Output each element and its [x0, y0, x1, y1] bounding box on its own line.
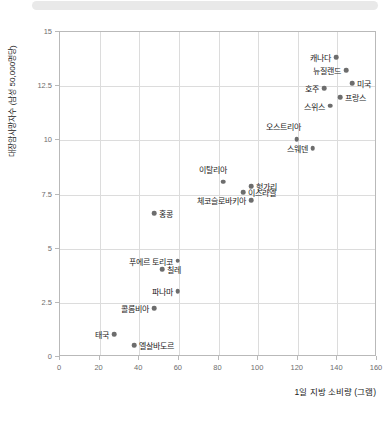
data-point-label: 칠레: [167, 264, 181, 275]
data-point-label: 홍콩: [159, 208, 173, 219]
data-point[interactable]: [221, 179, 226, 184]
data-point[interactable]: [112, 332, 117, 337]
y-gridline: [60, 303, 375, 304]
data-point[interactable]: [176, 258, 181, 263]
y-tick: [55, 248, 59, 249]
x-tick: [59, 356, 60, 360]
data-point[interactable]: [338, 95, 343, 100]
data-point-label: 미국: [357, 78, 371, 89]
data-point[interactable]: [334, 55, 339, 60]
x-tick: [376, 356, 377, 360]
x-gridline: [337, 32, 338, 355]
plot-area: [59, 31, 376, 356]
scatter-chart-figure: 1일 지방 소비량 (그램) 대장암사망자수 (남성 50,000명당) 020…: [0, 0, 385, 426]
x-tick-label: 0: [57, 363, 61, 372]
data-point-label: 이탈리아: [199, 163, 227, 174]
data-point-label: 캐나다: [310, 52, 331, 63]
y-tick: [55, 194, 59, 195]
y-tick: [55, 302, 59, 303]
data-point-label: 뉴질랜드: [313, 65, 341, 76]
data-point-label: 파나마: [152, 286, 173, 297]
data-point-label: 엘살바도르: [139, 340, 174, 351]
y-gridline: [60, 140, 375, 141]
y-tick-label: 12.5: [25, 81, 52, 90]
data-point-label: 호주: [305, 83, 319, 94]
data-point[interactable]: [176, 289, 181, 294]
x-tick-label: 60: [174, 363, 182, 372]
data-point[interactable]: [344, 68, 349, 73]
data-point[interactable]: [350, 81, 355, 86]
data-point[interactable]: [294, 137, 299, 142]
y-axis-label: 대장암사망자수 (남성 50,000명당): [6, 47, 17, 157]
y-tick: [55, 356, 59, 357]
y-tick: [55, 31, 59, 32]
data-point-label: 오스트리아: [266, 121, 301, 132]
x-tick: [257, 356, 258, 360]
x-gridline: [100, 32, 101, 355]
x-tick-label: 20: [94, 363, 102, 372]
data-point-label: 스웨덴: [287, 143, 308, 154]
y-tick-label: 5: [25, 243, 52, 252]
x-tick: [178, 356, 179, 360]
x-tick: [297, 356, 298, 360]
y-gridline: [60, 249, 375, 250]
x-tick: [99, 356, 100, 360]
data-point-label: 프랑스: [345, 92, 366, 103]
x-tick-label: 120: [290, 363, 303, 372]
y-tick-label: 15: [25, 27, 52, 36]
data-point-label: 태국: [95, 329, 109, 340]
y-gridline: [60, 86, 375, 87]
x-gridline: [219, 32, 220, 355]
x-tick: [138, 356, 139, 360]
data-point[interactable]: [152, 211, 157, 216]
y-tick-label: 10: [25, 135, 52, 144]
x-axis-label: 1일 지방 소비량 (그램): [295, 385, 376, 397]
x-tick: [218, 356, 219, 360]
data-point[interactable]: [249, 198, 254, 203]
data-point-label: 이스라엘: [248, 187, 276, 198]
data-point[interactable]: [310, 146, 315, 151]
x-gridline: [179, 32, 180, 355]
x-tick-label: 100: [251, 363, 264, 372]
data-point-label: 체코슬로바키아: [197, 195, 246, 206]
data-point[interactable]: [152, 306, 157, 311]
y-tick-label: 2.5: [25, 297, 52, 306]
y-tick-label: 0: [25, 352, 52, 361]
x-tick: [336, 356, 337, 360]
x-tick-label: 140: [330, 363, 343, 372]
data-point[interactable]: [132, 343, 137, 348]
data-point[interactable]: [160, 267, 165, 272]
data-point[interactable]: [328, 103, 333, 108]
y-tick: [55, 85, 59, 86]
data-point-label: 스위스: [304, 100, 325, 111]
data-point[interactable]: [322, 86, 327, 91]
data-point-label: 콜롬비아: [121, 303, 149, 314]
x-tick-label: 80: [213, 363, 221, 372]
x-gridline: [298, 32, 299, 355]
x-tick-label: 40: [134, 363, 142, 372]
y-tick: [55, 139, 59, 140]
x-tick-label: 160: [370, 363, 383, 372]
y-tick-label: 7.5: [25, 189, 52, 198]
